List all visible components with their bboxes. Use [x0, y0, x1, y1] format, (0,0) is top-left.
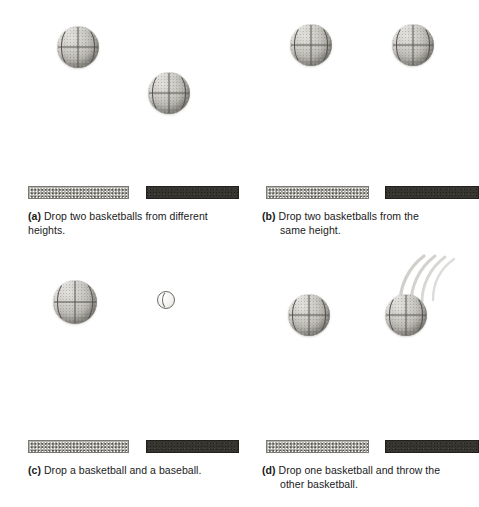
panel-b: (b) Drop two basketballs from the same h… [240, 0, 479, 253]
hard-surface-bar [146, 440, 239, 453]
basketball-seam-curve-left [152, 73, 173, 113]
basketball-seam-horizontal [149, 93, 189, 94]
panel-c-ground [0, 440, 239, 460]
panel-b-caption: (b) Drop two basketballs from the same h… [262, 210, 472, 237]
panel-a-caption: (a) Drop two basketballs from different … [28, 210, 243, 237]
panel-a: (a) Drop two basketballs from different … [0, 0, 239, 253]
cushioned-surface-bar [28, 186, 129, 199]
basketball-right [148, 72, 190, 114]
basketball-seam-curve-right [409, 25, 430, 65]
basketball-seam-curve-right [74, 27, 95, 67]
panel-b-label: (b) [262, 210, 276, 222]
panel-c-caption-text: Drop a basketball and a baseball. [44, 464, 202, 476]
panel-d-label: (d) [262, 464, 276, 476]
basketball-seam-curve-right [165, 73, 186, 113]
basketball-seam-vertical [311, 25, 312, 65]
panel-a-caption-text: Drop two basketballs from different heig… [28, 210, 208, 236]
panel-c-caption: (c) Drop a basketball and a baseball. [28, 464, 243, 478]
basketball-left [290, 24, 332, 66]
basketball-seam-curve-left [389, 295, 410, 335]
cushioned-surface-bar [28, 440, 129, 453]
basketball-seam-curve-right [402, 295, 423, 335]
basketball-seam-curve-right [305, 295, 326, 335]
figure-grid: (a) Drop two basketballs from different … [0, 0, 479, 507]
baseball [157, 291, 175, 309]
panel-d-scene [240, 254, 479, 440]
panel-d-ground [240, 440, 479, 460]
panel-a-label: (a) [28, 210, 41, 222]
basketball-right [392, 24, 434, 66]
panel-d-caption: (d) Drop one basketball and throw the ot… [262, 464, 472, 491]
panel-a-scene [0, 0, 239, 186]
cushioned-surface-bar [266, 186, 369, 199]
panel-c-label: (c) [28, 464, 41, 476]
hard-surface-bar [146, 186, 239, 199]
basketball-seam-curve-right [307, 25, 328, 65]
basketball-left [57, 26, 99, 68]
basketball-seam-vertical [406, 295, 407, 335]
panel-b-caption-text: Drop two basketballs from the [279, 210, 419, 222]
basketball-seam-curve-left [61, 27, 82, 67]
basketball-seam-vertical [309, 295, 310, 335]
panel-a-ground [0, 186, 239, 206]
hard-surface-bar [385, 440, 479, 453]
basketball-seam-vertical [78, 27, 79, 67]
panel-c: (c) Drop a basketball and a baseball. [0, 254, 239, 507]
panel-d-caption-text: Drop one basketball and throw the [279, 464, 441, 476]
basketball-seam-curve-left [294, 25, 315, 65]
basketball-seam-vertical [413, 25, 414, 65]
basketball-seam-horizontal [393, 45, 433, 46]
baseball-stitch [162, 291, 175, 309]
basketball-seam-horizontal [58, 47, 98, 48]
basketball-seam-curve-right [71, 281, 93, 322]
basketball-seam-horizontal [291, 45, 331, 46]
basketball [53, 280, 97, 324]
hard-surface-bar [385, 186, 479, 199]
panel-d-caption-text-line2: other basketball. [262, 478, 472, 492]
basketball-thrown [385, 294, 427, 336]
basketball-seam-horizontal [54, 302, 96, 303]
basketball-dropped [288, 294, 330, 336]
basketball-seam-curve-left [396, 25, 417, 65]
basketball-seam-vertical [169, 73, 170, 113]
basketball-seam-curve-left [57, 281, 79, 322]
panel-b-scene [240, 0, 479, 186]
cushioned-surface-bar [266, 440, 369, 453]
panel-b-caption-text-line2: same height. [262, 224, 472, 238]
basketball-seam-vertical [75, 281, 76, 323]
panel-b-ground [240, 186, 479, 206]
panel-c-scene [0, 254, 239, 440]
basketball-seam-curve-left [292, 295, 313, 335]
panel-d: (d) Drop one basketball and throw the ot… [240, 254, 479, 507]
basketball-seam-horizontal [289, 315, 329, 316]
basketball-seam-horizontal [386, 315, 426, 316]
